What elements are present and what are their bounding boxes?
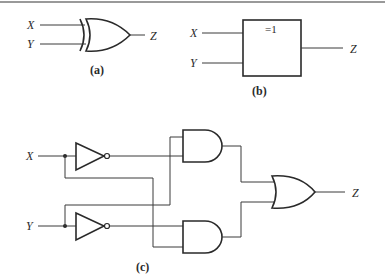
panel-b: X Y =1 Z (b) (189, 20, 357, 98)
xor-gate-icon (86, 19, 130, 51)
caption-b: (b) (252, 84, 267, 98)
not-gate-x-icon (76, 143, 104, 170)
input-y-label: Y (190, 56, 198, 70)
not-bubble-x (105, 154, 110, 159)
caption-c: (c) (136, 260, 149, 274)
not-bubble-y (105, 224, 110, 229)
panel-c: X Y Z (c) (25, 130, 359, 274)
or-gate-icon (272, 176, 315, 208)
wire-and2-out (222, 202, 276, 237)
wire-and1-out (222, 146, 276, 182)
xor-input-curve (80, 19, 84, 51)
output-z-label: Z (352, 186, 359, 200)
input-y-label: Y (27, 37, 35, 51)
and-gate-2-icon (183, 221, 222, 253)
input-y-label: Y (26, 219, 34, 233)
and-gate-1-icon (183, 130, 222, 162)
xor-diagram: X Y Z (a) X Y =1 Z (b) X Y (0, 0, 385, 277)
input-x-label: X (25, 149, 34, 163)
output-z-label: Z (150, 29, 157, 43)
input-x-label: X (26, 18, 35, 32)
box-symbol: =1 (265, 23, 277, 35)
input-x-label: X (189, 26, 198, 40)
caption-a: (a) (90, 63, 104, 77)
output-z-label: Z (350, 42, 357, 56)
not-gate-y-icon (76, 213, 104, 240)
panel-a: X Y Z (a) (26, 18, 157, 77)
